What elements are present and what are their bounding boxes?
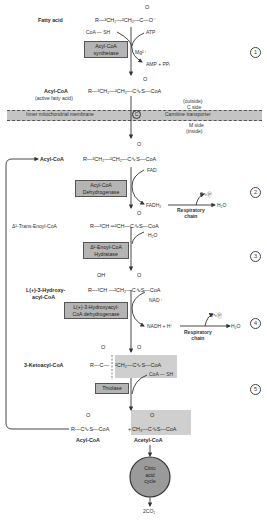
step-2-badge: 2: [250, 187, 261, 198]
fadh2-product: FADH₂: [146, 202, 161, 208]
water-product-1: H₂O: [217, 202, 226, 208]
product-acyl-carbonyl: O: [86, 412, 90, 418]
acyl-coa-2-formula: R—³CH₂—²CH₂—C∿S—CoA: [83, 156, 156, 162]
fad-cofactor: FAD: [147, 167, 157, 173]
coash-cofactor-2: CoA — SH: [149, 371, 173, 377]
nadh-product: NADH + H⁺: [147, 323, 173, 329]
water-reactant: H₂O: [148, 232, 157, 238]
inside-label: (inside): [186, 128, 202, 134]
product-acetyl-carbonyl: O: [150, 412, 154, 418]
hydroxyacyl-label-2: acyl-CoA: [32, 294, 55, 300]
citric-acid-cycle-label: Citric acid cycle: [138, 465, 162, 485]
hydroxyacyl-oh: OH: [97, 272, 105, 278]
nad-cofactor: NAD⁺: [149, 297, 163, 303]
mg-cofactor: Mg²⁺: [135, 49, 147, 55]
acyl-coa-1-sublabel: (active fatty acid): [35, 95, 73, 101]
product-acetyl-label: Acetyl-CoA: [134, 437, 163, 443]
fatty-acid-carbonyl: O: [145, 4, 149, 10]
enzyme-thiolase: Thiolase: [95, 383, 129, 394]
water-product-2: H₂O: [231, 323, 240, 329]
step-5-badge: 5: [250, 384, 261, 395]
acyl-coa-1-carbonyl: O: [143, 76, 147, 82]
trans-enoyl-formula: R—³CH ═²CH—C∿S—CoA: [90, 223, 159, 229]
fatty-acid-label: Fatty acid: [38, 17, 63, 23]
atp-cofactor: ATP: [146, 29, 155, 35]
ketoacyl-formula-right: ²CH₂—C∿S—CoA: [115, 362, 161, 368]
pathway-arrows: [0, 0, 267, 522]
c-side-label: C side: [187, 104, 201, 110]
product-plus: +: [128, 426, 131, 432]
trans-enoyl-carbonyl: O: [137, 210, 141, 216]
coash-cofactor-1: CoA — SH: [86, 29, 110, 35]
enzyme-hydroxyacyl-coa-dehydrogenase: L(+)-3-Hydroxyacyl- CoA dehydrogenase: [64, 302, 128, 319]
respiratory-chain-1: Respiratory chain: [177, 207, 205, 219]
fatty-acid-formula: R—³CH₂—²CH₂—C—O⁻: [95, 17, 156, 23]
enzyme-acyl-coa-synthetase: Acyl-CoA synthetase: [84, 41, 128, 58]
acyl-coa-1-formula: R—³CH₂—²CH₂—C∿S—CoA: [88, 88, 161, 94]
acyl-coa-2-label: Acyl-CoA: [40, 156, 64, 162]
amp-ppi-product: AMP + PPᵢ: [146, 61, 170, 67]
membrane-label: Inner mitochondrial membrane: [26, 111, 94, 117]
hydroxyacyl-label: L(+)-3-Hydroxy-: [26, 287, 65, 293]
respiratory-chain-2: Respiratory chain: [184, 329, 212, 341]
ketoacyl-carbonyl-right: O: [137, 344, 141, 350]
step-3-badge: 3: [250, 251, 261, 262]
product-acyl-label: Acyl-CoA: [76, 437, 100, 443]
product-acetyl-formula: CH₃—C∿S—CoA: [132, 426, 177, 432]
hydroxyacyl-carbonyl: O: [137, 272, 141, 278]
acyl-coa-2-carbonyl: O: [137, 141, 141, 147]
product-acyl-formula: R—C∿S—CoA: [71, 426, 109, 432]
phosphate-2: 2∿Ⓟ: [200, 190, 212, 197]
trans-enoyl-label: Δ²-Trans-Enoyl-CoA: [12, 223, 57, 229]
carnitine-carrier: C: [132, 110, 141, 119]
phosphate-3: 3∿Ⓟ: [210, 311, 222, 318]
step-1-badge: 1: [250, 47, 261, 58]
co2-output: 2CO₂: [143, 508, 155, 514]
acyl-coa-1-label: Acyl-CoA: [44, 88, 68, 94]
ketoacyl-carbonyl-left: O: [101, 344, 105, 350]
ketoacyl-label: 3-Ketoacyl-CoA: [24, 362, 63, 368]
hydroxyacyl-formula: R—³CH —²CH₂—C∿S—CoA: [88, 287, 161, 293]
enzyme-acyl-coa-dehydrogenase: Acyl-CoA Dehydrogenase: [75, 180, 127, 197]
step-4-badge: 4: [250, 318, 261, 329]
ketoacyl-formula-left: R—C—: [90, 362, 109, 368]
carnitine-transporter-label: Carnitine transporter: [165, 111, 211, 117]
enzyme-enoyl-coa-hydratase: Δ²-Enoyl-CoA Hydratase: [83, 242, 129, 259]
